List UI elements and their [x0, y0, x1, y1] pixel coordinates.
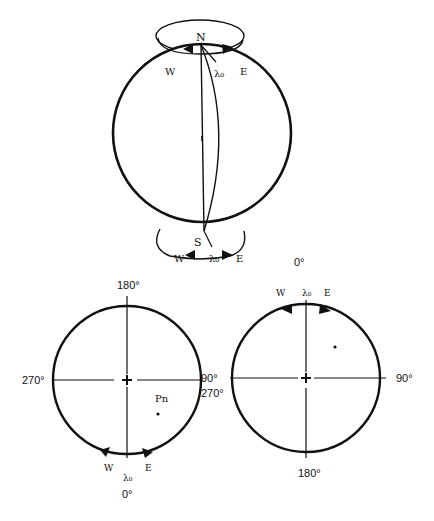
right-top-label: 0°	[294, 256, 305, 268]
right-right-label: 90°	[396, 372, 413, 384]
left-bottom-label: 0°	[122, 488, 133, 500]
right-east-label: E	[324, 288, 331, 298]
left-lambda-label: λ₀	[123, 473, 133, 483]
left-polar-view: 180° 270° 90° Pn W E λ₀ 0°	[22, 279, 218, 500]
north-lambda-label: λ₀	[214, 68, 224, 79]
globe-projection-diagram: N W λ₀ E S W λ₀ E 180° 270° 90° Pn W E λ…	[0, 0, 434, 521]
north-west-label: W	[165, 66, 176, 77]
right-point	[333, 345, 336, 348]
south-lambda-tick	[204, 231, 212, 247]
south-label: S	[194, 236, 202, 249]
south-lambda-label: λ₀	[209, 253, 219, 264]
right-left-label: 270°	[201, 387, 224, 399]
right-lambda-label: λ₀	[302, 288, 312, 298]
north-east-label: E	[240, 66, 247, 77]
south-east-arrowhead	[222, 250, 233, 260]
north-label: N	[196, 31, 206, 44]
left-top-label: 180°	[117, 279, 140, 291]
left-left-label: 270°	[22, 374, 45, 386]
right-polar-view: 0° W λ₀ E 270° 90° 180°	[201, 256, 413, 479]
top-globe: N W λ₀ E S W λ₀ E	[113, 20, 291, 264]
left-point-label: Pn	[155, 393, 169, 404]
south-west-label: W	[174, 253, 185, 264]
left-point-pn	[156, 412, 159, 415]
right-bottom-label: 180°	[298, 467, 321, 479]
south-east-label: E	[236, 253, 243, 264]
left-west-label: W	[104, 463, 114, 473]
right-west-label: W	[276, 288, 286, 298]
left-east-label: E	[145, 463, 152, 473]
left-right-label: 90°	[201, 372, 218, 384]
